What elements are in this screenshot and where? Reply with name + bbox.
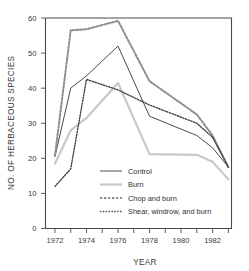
y-tick-label: 30 [28,119,36,128]
x-tick-label: 1974 [78,236,95,245]
legend-label-chop-and-burn: Chop and burn [128,194,177,203]
x-tick-label: 1976 [110,236,127,245]
chart-container: NO. OF HERBACEOUS SPECIES YEAR 010203040… [0,0,249,271]
y-tick-label: 0 [32,224,36,233]
x-tick-label: 1978 [141,236,158,245]
x-axis-tick-labels: 197219741976197819801982 [47,236,222,245]
x-tick-label: 1982 [204,236,221,245]
legend-label-shear-windrow-and-burn: Shear, windrow, and burn [128,207,211,216]
y-axis-ticks [41,18,46,229]
y-axis-title: NO. OF HERBACEOUS SPECIES [7,55,16,190]
x-tick-label: 1980 [173,236,190,245]
legend: ControlBurnChop and burnShear, windrow, … [100,167,211,217]
series-line-burn [55,83,228,179]
line-chart: NO. OF HERBACEOUS SPECIES YEAR 010203040… [0,0,249,271]
y-tick-label: 60 [28,14,36,23]
y-tick-label: 50 [28,49,36,58]
y-axis-title-group: NO. OF HERBACEOUS SPECIES [7,55,16,190]
data-series-group [55,21,228,187]
legend-label-burn: Burn [128,180,144,189]
x-tick-label: 1972 [47,236,64,245]
y-tick-label: 20 [28,154,36,163]
x-axis-ticks [55,229,228,234]
y-tick-label: 40 [28,84,36,93]
y-tick-label: 10 [28,189,36,198]
legend-label-control: Control [128,167,152,176]
y-axis-tick-labels: 0102030405060 [28,14,36,234]
series-line-chop-and-burn [55,21,228,167]
x-axis-title: YEAR [133,258,157,267]
